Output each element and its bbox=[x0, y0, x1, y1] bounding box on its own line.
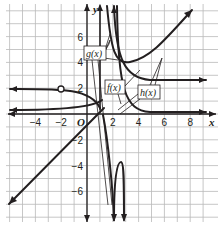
x-tick-label: 6 bbox=[162, 117, 168, 128]
y-axis-up-arrow-icon bbox=[84, 4, 90, 11]
y-tick-label: 6 bbox=[77, 32, 83, 43]
g-arrow-left-icon bbox=[10, 86, 17, 92]
x-tick-label: 8 bbox=[187, 117, 193, 128]
arrow-up-icon bbox=[97, 4, 103, 11]
f-label: f(x) bbox=[107, 82, 122, 94]
function-graph: y x O −4−22468642−2−4−6 bbox=[0, 0, 224, 227]
origin-label: O bbox=[77, 116, 85, 128]
x-tick-label: 2 bbox=[110, 117, 116, 128]
down-arrow-icon-1 bbox=[111, 214, 117, 222]
x-tick-label: −2 bbox=[55, 117, 67, 128]
y-tick-label: −6 bbox=[72, 186, 84, 197]
y-tick-label: −4 bbox=[72, 161, 84, 172]
x-tick-label: 4 bbox=[136, 117, 142, 128]
y-tick-label: 4 bbox=[77, 57, 83, 68]
x-axis-left-arrow-icon bbox=[8, 111, 15, 117]
g-label: g(x) bbox=[86, 48, 103, 60]
h-label: h(x) bbox=[140, 87, 157, 99]
x-tick-label: −4 bbox=[30, 117, 42, 128]
x-axis-label: x bbox=[208, 116, 215, 128]
y-axis-label: y bbox=[91, 3, 98, 15]
y-axis-down-arrow-icon bbox=[84, 215, 90, 222]
g-arrow-right-icon bbox=[199, 77, 206, 83]
hole-marker bbox=[58, 86, 64, 92]
